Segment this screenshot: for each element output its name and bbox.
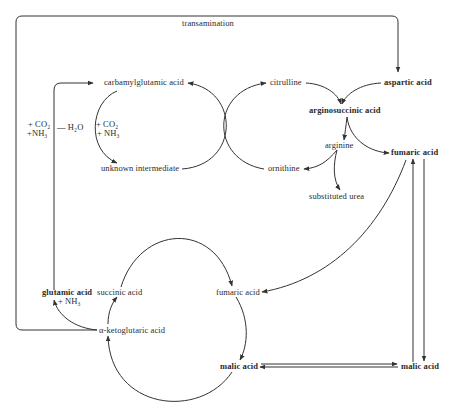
node-fumaric-acid-mid: fumaric acid [216, 288, 260, 297]
glutamic-to-carbamyl-arrow [54, 83, 93, 290]
node-succinic-acid: succinic acid [97, 288, 142, 297]
ornithine-to-citrulline-arrow [224, 83, 266, 169]
succinic-to-fumaric-arrow [121, 238, 232, 287]
aspartic-to-arginosuccinic-arrow [342, 83, 381, 104]
transamination-label: transamination [182, 19, 234, 28]
node-unknown-intermediate: unknown intermediate [101, 164, 179, 173]
arginine-to-urea-arrow [334, 150, 340, 190]
citrulline-to-arginosuccinic-arrow [306, 83, 341, 104]
node-arginosuccinic-acid: arginosuccinic acid [309, 106, 381, 115]
arginine-to-ornithine-arrow [304, 150, 337, 169]
node-citrulline: citrulline [270, 78, 302, 87]
unknown-to-carbamyl-arrow [182, 83, 226, 169]
node-carbamylglutamic-acid: carbamylglutamic acid [104, 78, 184, 87]
node-arginine: arginine [325, 141, 354, 150]
node-aspartic-acid: aspartic acid [384, 78, 432, 87]
annotation-left-nh3: +NH₃ [27, 129, 47, 138]
fumaric-to-malic-cycle-arrow [236, 297, 246, 360]
annotation-inner-nh3: + NH₃ [97, 129, 120, 138]
ketoglutaric-to-succinic-arrow [108, 297, 117, 324]
node-fumaric-acid-top: fumaric acid [391, 148, 438, 157]
node-ornithine: ornithine [268, 164, 300, 173]
annotation-minus-h2o: — H₂O [57, 123, 83, 132]
arginosuccinic-to-arginine-arrow [344, 117, 347, 140]
pathway-diagram [0, 0, 451, 417]
node-malic-acid-bottom: malic acid [220, 362, 258, 371]
node-glutamic-nh3: + NH₃ [58, 297, 81, 306]
fumaric-to-fumaric-arrow [262, 160, 406, 292]
node-substituted-urea: substituted urea [309, 192, 364, 201]
transamination-arrow [16, 16, 398, 330]
malic-to-ketoglutaric-arrow [108, 336, 232, 401]
node-malic-acid-right: malic acid [401, 362, 439, 371]
node-ketoglutaric-acid: α-ketoglutaric acid [99, 326, 165, 335]
